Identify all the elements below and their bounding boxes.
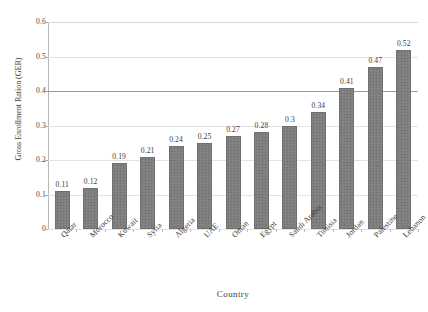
bar: [140, 157, 155, 229]
y-axis-tick-label: 0.6: [12, 17, 46, 26]
y-axis-tick-label: 0.4: [12, 86, 46, 95]
x-axis-tick-mark: [304, 229, 305, 232]
bar-value-label: 0.12: [74, 177, 108, 186]
bar: [339, 88, 354, 229]
x-axis-tick-mark: [190, 229, 191, 232]
bar: [396, 50, 411, 229]
x-axis-tick-mark: [133, 229, 134, 232]
y-axis-tick-labels: 00.10.20.30.40.50.6: [8, 0, 46, 312]
bar: [83, 188, 98, 229]
y-axis-tick-mark: [45, 22, 48, 23]
bar-value-label: 0.34: [301, 101, 335, 110]
x-axis-tick-mark: [219, 229, 220, 232]
bar: [169, 146, 184, 229]
y-axis-tick-label: 0.2: [12, 155, 46, 164]
bar: [282, 126, 297, 230]
x-axis-tick-mark: [361, 229, 362, 232]
gridline: [48, 91, 418, 92]
y-axis-tick-mark: [45, 57, 48, 58]
bar: [197, 143, 212, 229]
bar-chart: Gross Enrollment Ration (GER) 00.10.20.3…: [0, 0, 428, 312]
x-axis-title: Country: [48, 289, 418, 299]
y-axis-tick-mark: [45, 195, 48, 196]
x-axis-tick-mark: [105, 229, 106, 232]
gridline: [48, 22, 418, 23]
y-axis-tick-label: 0.5: [12, 52, 46, 61]
x-axis-tick-mark: [162, 229, 163, 232]
y-axis-tick-mark: [45, 126, 48, 127]
bar-value-label: 0.47: [358, 56, 392, 65]
x-axis-tick-mark: [247, 229, 248, 232]
y-axis-tick-mark: [45, 160, 48, 161]
bar-value-label: 0.3: [273, 115, 307, 124]
x-axis-tick-mark: [76, 229, 77, 232]
x-axis-tick-mark: [390, 229, 391, 232]
y-axis-tick-label: 0: [12, 224, 46, 233]
x-axis-tick-mark: [333, 229, 334, 232]
x-axis-tick-mark: [276, 229, 277, 232]
y-axis-tick-label: 0.3: [12, 121, 46, 130]
y-axis-tick-mark: [45, 229, 48, 230]
x-axis-tick-mark: [418, 229, 419, 232]
y-axis-tick-label: 0.1: [12, 190, 46, 199]
bar: [368, 67, 383, 229]
bar-value-label: 0.41: [330, 77, 364, 86]
y-axis-tick-mark: [45, 91, 48, 92]
bar: [254, 132, 269, 229]
bar-value-label: 0.52: [387, 39, 421, 48]
bar-value-label: 0.21: [131, 146, 165, 155]
bar: [226, 136, 241, 229]
